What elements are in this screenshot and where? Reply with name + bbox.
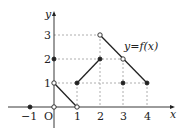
open-point [98, 33, 102, 37]
function-graph: y x O y=f(x) −1 1 2 3 4 1 2 3 [0, 0, 183, 134]
x-axis-label: x [170, 108, 177, 121]
filled-point [75, 81, 79, 85]
y-tick-label: 2 [44, 53, 51, 66]
filled-point [121, 81, 125, 85]
y-axis-label: y [44, 8, 52, 21]
function-label: y=f(x) [123, 40, 158, 53]
filled-point [28, 105, 32, 109]
origin-label: O [44, 110, 53, 123]
open-point [52, 81, 56, 85]
filled-point [98, 57, 102, 61]
y-tick-label: 1 [44, 77, 51, 90]
y-tick-label: 3 [44, 29, 51, 42]
x-tick-label: 2 [97, 110, 104, 123]
x-tick-label: 3 [120, 110, 127, 123]
open-point [52, 105, 56, 109]
open-point [75, 105, 79, 109]
open-point [121, 57, 125, 61]
y-axis-arrow-icon [52, 11, 56, 16]
filled-point [145, 81, 149, 85]
x-tick-label: −1 [21, 110, 37, 123]
filled-point [52, 57, 56, 61]
x-tick-label: 4 [144, 110, 151, 123]
x-tick-label: 1 [74, 110, 81, 123]
